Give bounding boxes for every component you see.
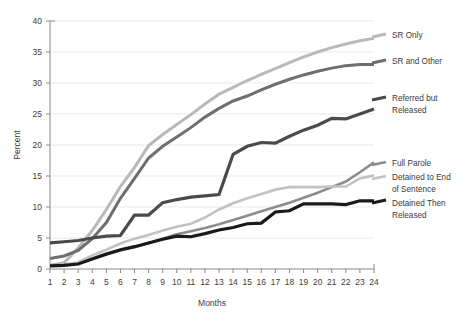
x-tick-label: 17 <box>271 277 281 287</box>
x-tick-label: 8 <box>146 277 151 287</box>
legend-label-8: Released <box>392 211 427 220</box>
legend-label-1: SR and Other <box>392 57 442 66</box>
legend-connector-1 <box>372 60 386 63</box>
x-tick-label: 21 <box>327 277 337 287</box>
x-tick-label: 4 <box>90 277 95 287</box>
legend-label-6: of Sentence <box>392 185 436 194</box>
legend-label-3: Released <box>392 106 427 115</box>
x-tick-label: 1 <box>48 277 53 287</box>
line-chart: 0510152025303540123456789101112131415161… <box>0 0 467 326</box>
x-tick-label: 16 <box>257 277 267 287</box>
legend-label-5: Detained to End <box>392 173 451 182</box>
series-line-1 <box>50 64 374 258</box>
x-tick-label: 6 <box>118 277 123 287</box>
x-tick-label: 9 <box>160 277 165 287</box>
y-tick-label: 15 <box>33 171 43 181</box>
x-tick-label: 3 <box>76 277 81 287</box>
x-tick-label: 15 <box>242 277 252 287</box>
x-tick-label: 22 <box>341 277 351 287</box>
y-tick-label: 25 <box>33 109 43 119</box>
x-tick-label: 23 <box>355 277 365 287</box>
x-tick-label: 2 <box>62 277 67 287</box>
y-tick-label: 0 <box>37 264 42 274</box>
y-tick-label: 5 <box>37 233 42 243</box>
y-tick-label: 30 <box>33 78 43 88</box>
x-tick-label: 24 <box>369 277 379 287</box>
x-tick-label: 20 <box>313 277 323 287</box>
y-tick-label: 20 <box>33 140 43 150</box>
legend-label-7: Detained Then <box>392 199 446 208</box>
x-tick-label: 12 <box>200 277 210 287</box>
x-tick-label: 5 <box>104 277 109 287</box>
legend-connector-2 <box>372 97 386 100</box>
x-tick-label: 13 <box>214 277 224 287</box>
x-axis-title: Months <box>198 298 226 308</box>
y-axis-title: Percent <box>12 130 22 160</box>
x-tick-label: 14 <box>228 277 238 287</box>
x-tick-label: 19 <box>299 277 309 287</box>
y-tick-label: 10 <box>33 202 43 212</box>
legend-label-2: Referred but <box>392 94 438 103</box>
legend-connector-3 <box>372 162 386 165</box>
x-tick-label: 7 <box>132 277 137 287</box>
legend-label-0: SR Only <box>392 31 423 40</box>
x-tick-label: 10 <box>172 277 182 287</box>
legend-connector-0 <box>372 34 386 37</box>
legend-label-4: Full Parole <box>392 159 432 168</box>
y-tick-label: 40 <box>33 16 43 26</box>
x-tick-label: 11 <box>186 277 195 287</box>
legend-connector-5 <box>372 200 386 203</box>
chart-canvas: 0510152025303540123456789101112131415161… <box>0 0 467 326</box>
x-tick-label: 18 <box>285 277 295 287</box>
y-tick-label: 35 <box>33 47 43 57</box>
